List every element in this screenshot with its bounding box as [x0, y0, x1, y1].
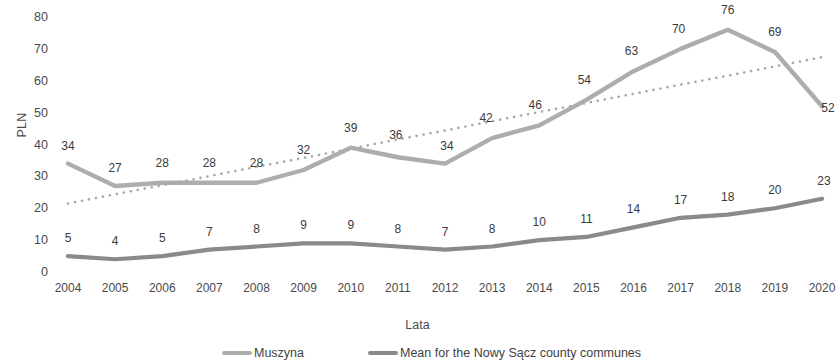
- legend-item-label: Muszyna: [254, 346, 304, 360]
- data-point-label: 9: [284, 219, 324, 231]
- data-point-label: 11: [566, 213, 606, 225]
- data-point-label: 8: [378, 223, 418, 235]
- data-point-label: 54: [564, 74, 604, 86]
- data-point-label: 7: [189, 226, 229, 238]
- legend-item[interactable]: Muszyna: [222, 343, 304, 362]
- data-point-label: 42: [466, 112, 506, 124]
- data-point-label: 17: [661, 194, 701, 206]
- x-axis-title: Lata: [0, 318, 835, 332]
- data-point-label: 10: [519, 216, 559, 228]
- legend-line-swatch: [368, 351, 398, 355]
- legend-item-label: Mean for the Nowy Sącz county communes: [400, 346, 641, 360]
- legend-item[interactable]: Mean for the Nowy Sącz county communes: [368, 343, 641, 362]
- data-point-label: 28: [189, 157, 229, 169]
- data-point-label: 8: [237, 223, 277, 235]
- data-point-label: 70: [659, 23, 699, 35]
- data-point-label: 36: [376, 129, 416, 141]
- data-point-label: 39: [331, 122, 371, 134]
- data-point-label: 9: [331, 219, 371, 231]
- data-point-label: 4: [95, 235, 135, 247]
- data-point-label: 76: [708, 4, 748, 16]
- data-point-label: 8: [472, 223, 512, 235]
- data-point-label: 5: [142, 232, 182, 244]
- data-point-label: 52: [808, 102, 840, 114]
- data-point-label: 5: [48, 232, 88, 244]
- data-point-label: 69: [755, 26, 795, 38]
- data-point-label: 28: [142, 157, 182, 169]
- data-point-label: 20: [755, 184, 795, 196]
- data-point-label: 34: [427, 140, 467, 152]
- data-point-label: 46: [515, 99, 555, 111]
- data-point-label: 27: [95, 162, 135, 174]
- data-point-label: 32: [284, 144, 324, 156]
- data-point-label: 18: [708, 191, 748, 203]
- data-point-label: 14: [614, 203, 654, 215]
- data-point-label: 34: [48, 140, 88, 152]
- legend-line-swatch: [222, 351, 252, 355]
- chart-legend: MuszynaMean for the Nowy Sącz county com…: [0, 343, 835, 362]
- data-point-label: 7: [425, 226, 465, 238]
- data-point-label: 63: [612, 45, 652, 57]
- data-point-label: 28: [237, 157, 277, 169]
- data-point-label: 23: [804, 175, 840, 187]
